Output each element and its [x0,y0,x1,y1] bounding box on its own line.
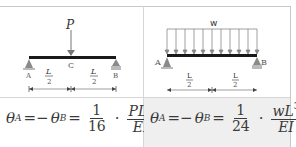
arrow-down-icon [67,50,75,56]
distributed-load-arrows [165,29,259,54]
beam [167,54,257,57]
load-fraction: wL3EI [271,102,296,134]
svg-text:L: L [90,67,96,76]
load-label: P [65,18,75,32]
svg-text:L: L [45,67,51,76]
distributed-load-slope-formula: θA =− θB = 124 · wL3EI [150,102,296,134]
load-label: w [210,18,217,28]
coefficient-fraction: 116 [86,103,108,133]
svg-text:2: 2 [92,78,96,86]
center-label: C [68,61,74,70]
point-load-diagram: P C A B L 2 L 2 [0,7,143,97]
point-load-beam-figure: P C A B L 2 L 2 [0,7,143,97]
distributed-load-formula-cell: θA =− θB = 124 · wL3EI [144,98,290,147]
coefficient-fraction: 124 [230,103,252,133]
point-load-slope-formula: θA =− θB = 116 · PL2EI [6,102,158,134]
support-b-label: B [261,58,267,67]
beam [29,56,116,59]
roller-support-icon [112,59,120,66]
svg-text:2: 2 [187,81,191,89]
pin-support-icon [25,59,33,68]
support-b-label: B [113,72,118,80]
svg-text:L: L [187,72,192,80]
distributed-load-beam-figure: w A B L 2 L 2 [144,7,290,97]
svg-text:2: 2 [233,81,237,89]
svg-text:2: 2 [47,78,51,86]
roller-support-icon [253,57,261,65]
support-a-label: A [154,58,161,67]
support-a-label: A [25,72,32,80]
svg-text:L: L [233,72,238,80]
distributed-load-diagram: w A B L 2 L 2 [144,7,290,97]
point-load-formula-cell: θA =− θB = 116 · PL2EI [0,98,143,147]
pin-support-icon [163,57,171,67]
